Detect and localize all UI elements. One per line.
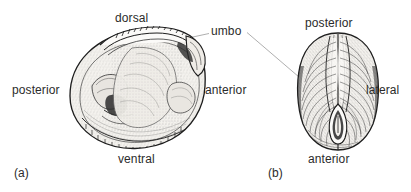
label-anterior-a: anterior xyxy=(205,84,247,97)
label-anterior-b: anterior xyxy=(308,153,350,166)
label-umbo: umbo xyxy=(211,25,241,38)
label-ventral-a: ventral xyxy=(118,153,155,166)
label-dorsal-a: dorsal xyxy=(115,12,148,25)
shell-a-hinge xyxy=(100,26,205,76)
shell-a-drawing xyxy=(66,26,211,156)
label-posterior-a: posterior xyxy=(12,84,60,97)
panel-label-a: (a) xyxy=(14,167,29,180)
bivalve-anatomy-figure: dorsal posterior anterior ventral umbo p… xyxy=(0,0,411,192)
label-posterior-b: posterior xyxy=(305,17,353,30)
label-lateral-b: lateral xyxy=(366,84,399,97)
umbo-leader-lines xyxy=(172,33,306,84)
panel-label-b: (b) xyxy=(268,167,283,180)
